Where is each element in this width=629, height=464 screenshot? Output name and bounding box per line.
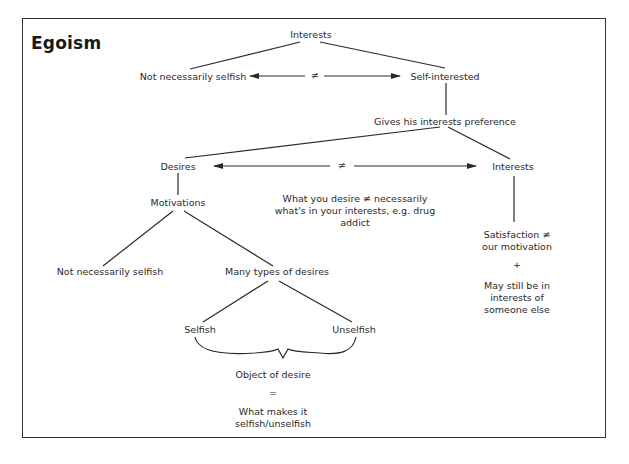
not-equal-symbol-middle: ≠: [338, 160, 346, 171]
equals-symbol: =: [269, 387, 277, 399]
note-line: addict: [275, 217, 435, 229]
plus-symbol: +: [513, 259, 521, 271]
note-line: selfish/unselfish: [235, 418, 311, 430]
node-selfish: Selfish: [184, 324, 215, 336]
node-what-makes-it: What makes it selfish/unselfish: [235, 406, 311, 430]
note-line: interests of: [484, 292, 550, 304]
note-line: What makes it: [235, 406, 311, 418]
note-line: Satisfaction ≠: [482, 229, 552, 241]
node-satisfaction: Satisfaction ≠ our motivation: [482, 229, 552, 253]
note-desire-vs-interest: What you desire ≠ necessarily what's in …: [275, 193, 435, 229]
node-desires: Desires: [160, 161, 195, 173]
diagram-title: Egoism: [31, 33, 101, 53]
node-object-of-desire: Object of desire: [235, 369, 310, 381]
note-line: What you desire ≠ necessarily: [275, 193, 435, 205]
node-many-types: Many types of desires: [225, 266, 329, 278]
note-line: someone else: [484, 304, 550, 316]
node-interests-right: Interests: [492, 161, 534, 173]
node-self-interested: Self-interested: [410, 71, 479, 83]
node-unselfish: Unselfish: [332, 324, 375, 336]
note-line: May still be in: [484, 280, 550, 292]
note-line: our motivation: [482, 241, 552, 253]
note-line: what's in your interests, e.g. drug: [275, 205, 435, 217]
node-interests-top: Interests: [290, 29, 332, 41]
node-motivations: Motivations: [151, 197, 206, 209]
node-gives-preference: Gives his interests preference: [374, 116, 516, 128]
node-not-necessarily-selfish-bottom: Not necessarily selfish: [57, 266, 164, 278]
not-equal-symbol-top: ≠: [311, 70, 319, 81]
node-not-necessarily-selfish-top: Not necessarily selfish: [140, 71, 247, 83]
node-may-still-be: May still be in interests of someone els…: [484, 280, 550, 316]
